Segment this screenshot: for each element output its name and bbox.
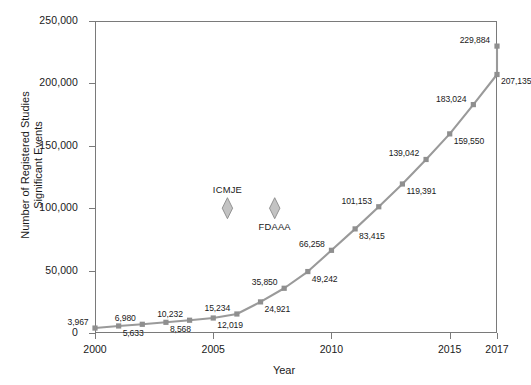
y-tick-mark	[89, 21, 95, 22]
series-marker	[305, 269, 310, 274]
series-marker	[494, 44, 499, 49]
series-marker	[234, 311, 239, 316]
annotation-label-fdaaa: FDAAA	[235, 221, 315, 232]
data-point-label: 101,153	[341, 196, 371, 206]
y-tick-mark	[89, 333, 95, 334]
y-tick-mark	[89, 208, 95, 209]
data-point-label: 229,884	[460, 35, 490, 45]
series-marker	[187, 318, 192, 323]
y-tick-mark	[89, 271, 95, 272]
data-point-label: 6,980	[115, 313, 136, 323]
series-marker	[211, 315, 216, 320]
series-marker	[282, 286, 287, 291]
y-tick-mark	[89, 83, 95, 84]
data-point-label: 12,019	[217, 320, 243, 330]
data-point-label: 35,850	[252, 277, 278, 287]
series-marker	[494, 72, 499, 77]
annotation-label-icmje: ICMJE	[187, 184, 267, 195]
series-marker	[116, 323, 121, 328]
data-point-label: 119,391	[406, 186, 436, 196]
data-point-label: 10,232	[157, 309, 183, 319]
data-point-label: 83,415	[359, 231, 385, 241]
data-point-label: 15,234	[204, 303, 230, 313]
data-point-label: 5,633	[123, 328, 144, 338]
series-marker	[471, 102, 476, 107]
data-point-label: 183,024	[436, 94, 466, 104]
data-point-label: 207,135	[501, 76, 531, 86]
series-marker	[447, 131, 452, 136]
annotation-diamond-icon-icmje	[222, 198, 232, 219]
data-point-label: 139,042	[389, 148, 419, 158]
series-marker	[353, 226, 358, 231]
series-marker	[376, 204, 381, 209]
series-marker	[400, 181, 405, 186]
page-caption-fragment	[12, 376, 520, 385]
data-point-label: 66,258	[299, 239, 325, 249]
series-marker	[258, 299, 263, 304]
data-point-label: 24,921	[265, 304, 291, 314]
series-line	[95, 46, 497, 328]
data-point-label: 159,550	[454, 136, 484, 146]
series-marker	[140, 322, 145, 327]
series-marker	[329, 248, 334, 253]
series-marker	[423, 157, 428, 162]
annotation-diamond-icon-fdaaa	[270, 198, 280, 219]
series-marker	[92, 325, 97, 330]
data-point-label: 49,242	[312, 274, 338, 284]
data-point-label: 3,967	[68, 317, 89, 327]
series-marker	[163, 320, 168, 325]
y-tick-mark	[89, 146, 95, 147]
data-point-label: 8,568	[170, 324, 191, 334]
